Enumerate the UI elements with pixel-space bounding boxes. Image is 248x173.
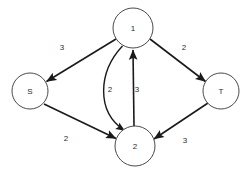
node-s-label: S xyxy=(27,87,32,96)
node-t-label: T xyxy=(219,87,224,96)
edge-weight-1-t: 2 xyxy=(182,43,187,52)
graph-canvas: 1 S T 2 3 2 2 3 2 3 xyxy=(0,0,248,173)
edge-1-to-t xyxy=(150,39,206,82)
edge-weight-2-1: 3 xyxy=(135,85,140,94)
edge-s-to-2 xyxy=(44,104,116,139)
edge-weight-s-2: 2 xyxy=(64,134,69,143)
edge-t-to-2 xyxy=(154,103,208,139)
node-1-label: 1 xyxy=(131,24,136,33)
edge-weight-t-2: 3 xyxy=(183,136,188,145)
graph-diagram: 1 S T 2 3 2 2 3 2 3 xyxy=(0,0,248,173)
edge-1-to-2-curved xyxy=(104,46,125,131)
edge-weight-1-s: 3 xyxy=(60,43,65,52)
node-2-label: 2 xyxy=(133,142,138,151)
node-group: 1 S T 2 xyxy=(12,8,239,166)
edge-group xyxy=(44,39,208,139)
edge-weight-1-2-curved: 2 xyxy=(108,85,113,94)
